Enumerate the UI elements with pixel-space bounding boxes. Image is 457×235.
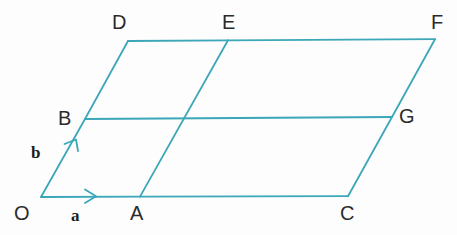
vertex-label-F: F	[431, 12, 443, 32]
lattice-lines	[41, 39, 435, 197]
edge-B-G	[85, 117, 392, 119]
vertex-label-O: O	[14, 203, 30, 223]
vector-label-b: b	[31, 144, 40, 161]
vertex-label-E: E	[222, 12, 235, 32]
vector-parallelogram-diagram: O A C B G D E F a b	[0, 0, 457, 235]
vertex-label-B: B	[58, 108, 71, 128]
vertex-label-C: C	[340, 203, 354, 223]
vertex-label-D: D	[112, 12, 126, 32]
vertex-label-A: A	[130, 203, 143, 223]
edge-D-E-F	[128, 39, 435, 41]
vertex-label-G: G	[399, 106, 415, 126]
vector-b-arrowhead-icon	[65, 140, 79, 152]
vector-label-a: a	[71, 207, 80, 224]
vector-arrowheads	[65, 140, 97, 204]
edge-O-A-C	[41, 196, 348, 197]
